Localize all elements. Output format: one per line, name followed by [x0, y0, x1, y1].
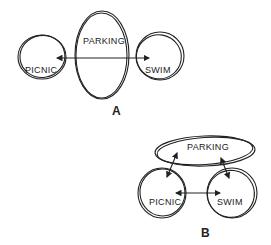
b-picnic-label: PICNIC: [149, 197, 181, 207]
diagram-a: [17, 11, 185, 99]
b-caption: B: [201, 226, 210, 240]
b-swim-label: SWIM: [217, 197, 243, 207]
b-parking-label: PARKING: [187, 142, 229, 152]
diagram-canvas: [0, 0, 271, 245]
a-parking-label: PARKING: [83, 36, 125, 46]
a-picnic-label: PICNIC: [25, 65, 57, 75]
a-caption: A: [112, 104, 121, 118]
a-parking-oval: [75, 11, 129, 99]
a-swim-label: SWIM: [145, 65, 171, 75]
b-swim-circle: [204, 167, 257, 220]
